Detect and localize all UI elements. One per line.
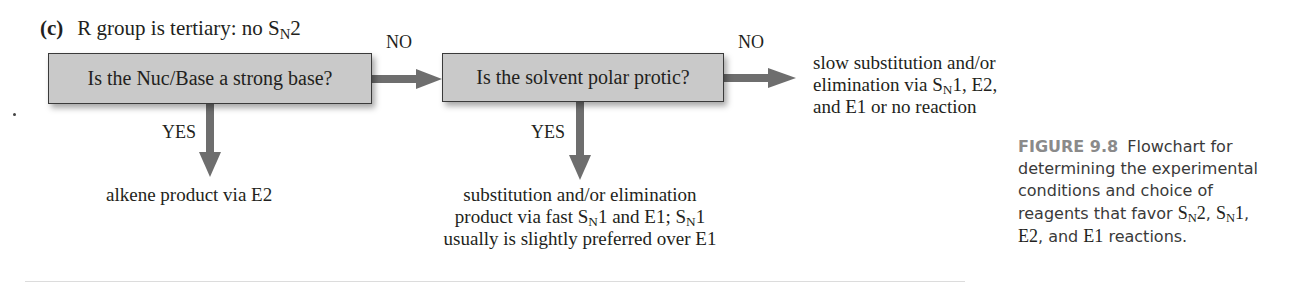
edge-label-q1-yes: YES bbox=[162, 122, 196, 143]
arrow-q2-no bbox=[724, 68, 796, 88]
outcome-alkene-e2: alkene product via E2 bbox=[106, 184, 272, 206]
edge-label-q2-yes: YES bbox=[531, 122, 565, 143]
arrow-q1-no bbox=[372, 69, 442, 89]
outcome-slow-substitution: slow substitution and/or elimination via… bbox=[813, 52, 997, 118]
arrow-q1-yes bbox=[199, 104, 221, 177]
figure-caption: FIGURE 9.8 Flowchart for determining the… bbox=[1018, 136, 1303, 248]
decision-strong-base: Is the Nuc/Base a strong base? bbox=[48, 53, 372, 104]
decision-polar-protic: Is the solvent polar protic? bbox=[442, 53, 724, 102]
edge-label-q2-no: NO bbox=[738, 32, 764, 53]
edge-label-q1-no: NO bbox=[386, 32, 412, 53]
arrow-q2-yes bbox=[569, 102, 591, 180]
bottom-divider bbox=[25, 281, 965, 282]
outcome-fast-sn1-e1: substitution and/or elimination product … bbox=[440, 184, 720, 250]
figure-number: FIGURE 9.8 bbox=[1018, 137, 1118, 156]
